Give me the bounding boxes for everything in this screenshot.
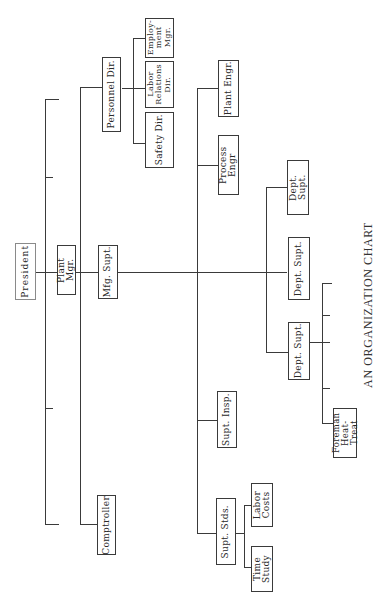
node-supt-stds: Supt. Stds. (216, 498, 236, 565)
bracket-bottom-tick (45, 524, 59, 525)
node-president: President (15, 243, 36, 300)
node-dept-supt-2: Dept. Supt. (288, 237, 310, 300)
personnel-sub-branch-line (133, 38, 134, 143)
node-label: Employ- ment Mgr. (147, 20, 172, 55)
node-mfg-supt: Mfg. Supt. (98, 245, 118, 299)
foreman-tick-3 (322, 342, 330, 343)
to-time-study-line (244, 567, 251, 568)
foreman-branch-line (322, 283, 323, 423)
node-employment-mgr: Employ- ment Mgr. (145, 18, 174, 58)
node-time-study: Time Study (251, 546, 273, 592)
node-supt-insp: Supt. Insp. (217, 391, 237, 448)
node-label: Labor Relations Dir. (147, 64, 172, 105)
node-plant-mgr: Plant Mgr. (57, 245, 76, 295)
plant-mgr-branch-line (80, 87, 81, 524)
to-safety-line (133, 143, 145, 144)
foreman-tick-2 (322, 315, 330, 316)
node-label: President (21, 245, 30, 298)
node-comptroller: Comptroller (97, 495, 116, 555)
node-dept-supt-3: Dept. Supt. (288, 322, 310, 380)
chart-caption: AN ORGANIZATION CHART (360, 210, 376, 400)
node-label: Plant Mgr. (57, 246, 76, 294)
to-labor-costs-line (244, 505, 251, 506)
node-label: Safety Dir. (155, 114, 164, 165)
node-label: Time Study (253, 555, 272, 583)
to-supt-stds-line (197, 533, 216, 534)
node-process-engr: Process Engr (218, 135, 239, 195)
stds-sub-branch-line (244, 505, 245, 567)
node-label: Dept. Supt. (289, 161, 308, 214)
to-supt-insp-line (197, 420, 217, 421)
node-labor-relations-dir: Labor Relations Dir. (145, 61, 174, 108)
president-bracket-line (45, 99, 46, 524)
node-label: Foreman Heat-Treat (332, 409, 359, 457)
node-label: Supt. Stds. (221, 505, 230, 558)
bracket-top-tick (45, 99, 59, 100)
foreman-tick-4 (322, 388, 330, 389)
bracket-tick-lower (45, 408, 53, 409)
dept-branch-line (266, 187, 267, 352)
node-plant-engr: Plant Engr. (218, 60, 239, 117)
dept3-to-foreman-line (310, 342, 322, 343)
to-dept-supt-3-line (266, 352, 288, 353)
node-safety-dir: Safety Dir. (145, 112, 174, 168)
chart-title: AN ORGANIZATION CHART (361, 222, 376, 388)
node-label: Labor Costs (253, 491, 272, 519)
node-labor-costs: Labor Costs (251, 483, 273, 527)
stds-to-sub-line (236, 533, 244, 534)
node-dept-supt-1: Dept. Supt. (287, 160, 309, 215)
personnel-to-sub-line (122, 88, 133, 89)
node-label: Comptroller (102, 496, 111, 555)
node-label: Dept. Supt. (294, 241, 303, 296)
to-employment-line (133, 38, 145, 39)
node-label: Plant Engr. (224, 61, 233, 115)
to-plant-engr-line (197, 88, 218, 89)
to-dept-supt-1-line (266, 187, 287, 188)
node-label: Mfg. Supt. (103, 246, 112, 297)
node-foreman-heat-treat: Foreman Heat-Treat (333, 408, 357, 458)
node-label: Process Engr (219, 136, 238, 194)
to-labor-relations-line (133, 88, 145, 89)
node-label: Personnel Dir. (107, 60, 116, 128)
bracket-tick-upper (45, 177, 53, 178)
node-label: Supt. Insp. (222, 393, 231, 446)
foreman-tick-1 (322, 283, 332, 284)
to-process-engr-line (197, 165, 218, 166)
node-label: Dept. Supt. (294, 323, 303, 378)
node-personnel-dir: Personnel Dir. (102, 57, 121, 132)
mfg-staff-branch-line (197, 88, 198, 533)
to-personnel-line (80, 87, 102, 88)
to-comptroller-line (80, 524, 97, 525)
